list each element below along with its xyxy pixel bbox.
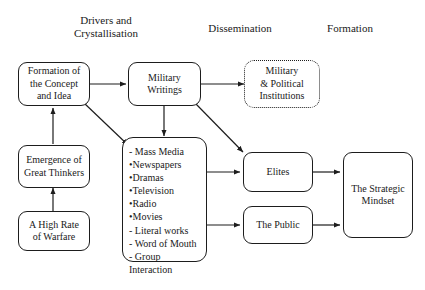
diagram-canvas: Drivers and Crystallisation Disseminatio… bbox=[0, 0, 425, 290]
node-elites[interactable]: Elites bbox=[243, 152, 313, 192]
node-formation-of-the-concept-and-idea[interactable]: Formation of the Concept and Idea bbox=[18, 62, 90, 106]
mass-media-list: - Mass Media •Newspapers •Dramas •Televi… bbox=[129, 145, 201, 276]
edge-concept-to-media bbox=[84, 103, 128, 145]
node-emergence-of-great-thinkers[interactable]: Emergence of Great Thinkers bbox=[18, 145, 90, 188]
node-mass-media-channels[interactable]: - Mass Media •Newspapers •Dramas •Televi… bbox=[122, 137, 207, 262]
node-military-writings[interactable]: Military Writings bbox=[128, 62, 201, 106]
node-a-high-rate-of-warfare[interactable]: A High Rate of Warfare bbox=[18, 211, 90, 251]
node-the-strategic-mindset[interactable]: The Strategic Mindset bbox=[343, 152, 413, 238]
node-the-public[interactable]: The Public bbox=[243, 206, 313, 244]
node-military-and-political-institutions[interactable]: Military & Political Institutions bbox=[244, 60, 320, 108]
